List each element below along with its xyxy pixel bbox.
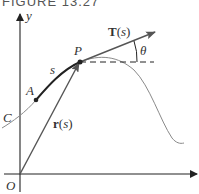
origin-label: O: [6, 178, 16, 193]
angle-label: θ: [140, 43, 147, 58]
point-a-marker: [34, 98, 39, 103]
diagram-canvas: y O P A s C r(s) T(s) θ: [0, 0, 199, 194]
tangent-vector-label: T(s): [108, 24, 130, 39]
curve-c: [2, 57, 184, 143]
curve-label: C: [3, 110, 12, 125]
arc-segment-a-to-p: [36, 62, 80, 100]
y-axis-label: y: [24, 8, 32, 23]
angle-arc: [134, 41, 137, 62]
point-p-label: P: [73, 43, 82, 58]
point-p-marker: [78, 60, 83, 65]
point-a-label: A: [25, 83, 34, 98]
arc-length-label: s: [50, 62, 55, 77]
position-vector-label: r(s): [53, 116, 73, 131]
